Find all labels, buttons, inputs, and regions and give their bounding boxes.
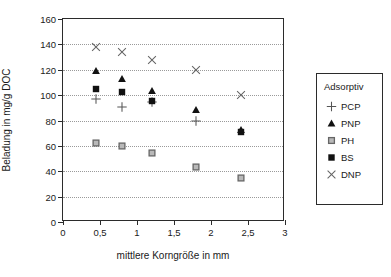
legend-item-pcp: PCP [324,98,382,115]
x-axis-tick-label: 0 [60,227,65,238]
legend-item-dnp: DNP [324,166,382,183]
y-axis-tick-label: 160 [30,14,56,25]
x-axis-tick-label: 2 [208,227,213,238]
legend-item-label: BS [341,152,354,163]
legend-item-pnp: PNP [324,115,382,132]
y-axis-tick [58,19,63,20]
legend-item-label: PNP [341,118,361,129]
y-axis-tick-label: 60 [30,140,56,151]
y-axis-tick [58,121,63,122]
data-point-ph [91,137,102,148]
y-axis-tick [58,197,63,198]
x-axis-tick [174,220,175,225]
x-axis-tick [248,220,249,225]
x-axis-tick-label: 0,5 [93,227,106,238]
x-axis-tick-label: 3 [282,227,287,238]
y-axis-tick-label: 80 [30,115,56,126]
legend-item-ph: PH [324,132,382,149]
x-axis-tick [211,220,212,225]
legend: Adsorptiv PCPPNPPHBSDNP [316,73,383,205]
data-point-ph [117,140,128,151]
legend-items: PCPPNPPHBSDNP [324,98,382,183]
x-axis-tick-label: 1 [134,227,139,238]
triangle-icon [324,118,338,129]
legend-item-bs: BS [324,149,382,166]
data-point-pnp [117,73,128,84]
plot-area: 020406080100120140160 00,511,522,53 [62,18,284,221]
plus-icon [324,101,338,112]
data-point-pcp [91,93,102,104]
legend-title: Adsorptiv [324,81,382,92]
data-point-bs [91,83,102,94]
data-point-dnp [146,55,157,66]
y-axis-tick-label: 40 [30,166,56,177]
data-point-ph [235,172,246,183]
x-axis-tick [63,220,64,225]
legend-item-label: PCP [341,101,361,112]
data-point-pcp [191,115,202,126]
y-axis-tick-label: 100 [30,90,56,101]
data-point-pnp [191,105,202,116]
data-point-dnp [191,64,202,75]
data-point-ph [191,161,202,172]
x-axis-tick-label: 1,5 [167,227,180,238]
cross-icon [324,169,338,180]
data-point-bs [146,95,157,106]
legend-item-label: PH [341,135,354,146]
y-axis-tick-label: 140 [30,39,56,50]
x-axis-tick [100,220,101,225]
x-axis-tick [137,220,138,225]
data-point-dnp [91,41,102,52]
chart-figure: Beladung in mg/g DOC 0204060801001201401… [0,0,391,277]
data-point-dnp [235,90,246,101]
gridline [63,171,283,172]
data-point-bs [117,86,128,97]
y-axis-tick [58,44,63,45]
y-axis-tick-label: 120 [30,64,56,75]
y-axis-tick-label: 0 [30,217,56,228]
data-point-bs [235,126,246,137]
data-point-pnp [91,66,102,77]
y-axis-tick [58,171,63,172]
x-axis-title: mittlere Korngröße in mm [62,250,284,261]
data-point-ph [146,148,157,159]
y-axis-tick [58,146,63,147]
data-point-dnp [117,46,128,57]
square-icon [324,152,338,163]
dotted-square-icon [324,135,338,146]
gridline [63,121,283,122]
x-axis-tick-label: 2,5 [241,227,254,238]
gridline [63,197,283,198]
y-axis-tick [58,70,63,71]
legend-item-label: DNP [341,169,361,180]
y-axis-title: Beladung in mg/g DOC [1,69,12,172]
y-axis-tick-label: 20 [30,191,56,202]
data-point-pcp [117,102,128,113]
x-axis-tick [285,220,286,225]
y-axis-tick [58,95,63,96]
